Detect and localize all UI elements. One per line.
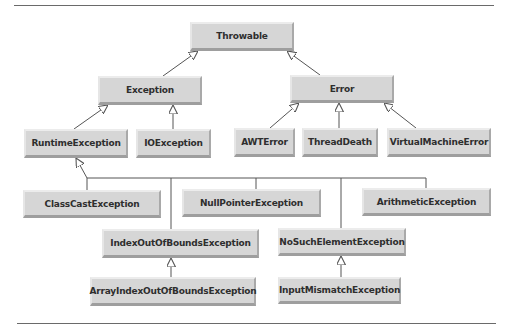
edge-runtime-exception — [74, 105, 108, 129]
edge-error-throwable — [287, 51, 320, 75]
node-exception: Exception — [98, 76, 202, 105]
edge-exception-throwable — [163, 51, 198, 76]
node-array-index-out-of-bounds-exception: ArrayIndexOutOfBoundsException — [90, 277, 256, 306]
node-null-pointer-exception: NullPointerException — [182, 189, 321, 217]
node-awt-error: AWTError — [234, 128, 295, 157]
node-arithmetic-exception: ArithmeticException — [362, 188, 491, 216]
edge-vm-error — [384, 103, 416, 128]
node-index-out-of-bounds-exception: IndexOutOfBoundsException — [102, 229, 259, 258]
node-input-mismatch-exception: InputMismatchException — [278, 277, 401, 304]
node-error: Error — [290, 75, 394, 103]
node-virtual-machine-error: VirtualMachineError — [387, 128, 491, 157]
node-runtime-exception: RuntimeException — [24, 129, 128, 158]
node-thread-death: ThreadDeath — [302, 128, 378, 157]
node-no-such-element-exception: NoSuchElementException — [278, 228, 406, 256]
node-class-cast-exception: ClassCastException — [23, 190, 161, 218]
node-io-exception: IOException — [136, 129, 211, 158]
edge-awt-error — [270, 103, 299, 128]
node-throwable: Throwable — [190, 22, 294, 51]
